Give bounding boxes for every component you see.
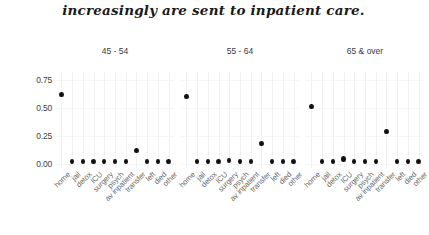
data-point — [91, 159, 95, 164]
vertical-gridline — [397, 72, 398, 168]
figure-caption: increasingly are sent to inpatient care. — [0, 2, 427, 18]
data-point — [384, 129, 388, 134]
vertical-gridline — [365, 72, 366, 168]
vertical-gridline — [322, 72, 323, 168]
vertical-gridline — [61, 72, 62, 168]
facet-panel: 65 & over — [306, 72, 424, 168]
panel-plot-area — [181, 72, 299, 168]
data-point — [416, 159, 420, 164]
chart-plot: 0.000.250.500.75 45 - 5455 - 6465 & over… — [0, 44, 427, 235]
y-axis-tick: 0.25 — [36, 131, 52, 141]
data-point — [374, 159, 378, 164]
vertical-gridline — [408, 72, 409, 168]
data-point — [156, 159, 160, 164]
data-point — [227, 158, 231, 163]
y-axis-tick: 0.75 — [36, 75, 52, 85]
vertical-gridline — [294, 72, 295, 168]
y-axis-tick: 0.00 — [36, 159, 52, 169]
data-point — [331, 159, 335, 164]
data-point — [124, 159, 128, 164]
data-point — [281, 159, 285, 164]
data-point — [238, 159, 242, 164]
data-point — [59, 92, 63, 97]
vertical-gridline — [419, 72, 420, 168]
panel-title: 55 - 64 — [181, 46, 299, 56]
vertical-gridline — [208, 72, 209, 168]
panel-plot-area — [56, 72, 174, 168]
x-axis-tick-label: home — [52, 170, 72, 190]
data-point — [184, 94, 188, 99]
vertical-gridline — [136, 72, 137, 168]
vertical-gridline — [261, 72, 262, 168]
vertical-gridline — [197, 72, 198, 168]
vertical-gridline — [333, 72, 334, 168]
data-point — [134, 148, 138, 153]
vertical-gridline — [126, 72, 127, 168]
vertical-gridline — [158, 72, 159, 168]
panel-title: 45 - 54 — [56, 46, 174, 56]
x-axis-tick-label: home — [302, 170, 322, 190]
vertical-gridline — [94, 72, 95, 168]
vertical-gridline — [272, 72, 273, 168]
data-point — [113, 159, 117, 164]
facet-panel: 45 - 54 — [56, 72, 174, 168]
data-point — [81, 159, 85, 164]
panel-plot-area — [306, 72, 424, 168]
data-point — [216, 159, 220, 164]
y-axis-tick: 0.50 — [36, 103, 52, 113]
vertical-gridline — [169, 72, 170, 168]
vertical-gridline — [83, 72, 84, 168]
vertical-gridline — [72, 72, 73, 168]
facet-panel: 55 - 64 — [181, 72, 299, 168]
vertical-gridline — [219, 72, 220, 168]
vertical-gridline — [283, 72, 284, 168]
data-point — [249, 159, 253, 164]
data-point — [309, 104, 313, 109]
vertical-gridline — [147, 72, 148, 168]
vertical-gridline — [344, 72, 345, 168]
data-point — [291, 159, 295, 164]
data-point — [259, 141, 263, 146]
vertical-gridline — [240, 72, 241, 168]
data-point — [206, 159, 210, 164]
y-axis: 0.000.250.500.75 — [0, 72, 56, 168]
data-point — [363, 159, 367, 164]
data-point — [406, 159, 410, 164]
vertical-gridline — [104, 72, 105, 168]
vertical-gridline — [386, 72, 387, 168]
data-point — [341, 156, 345, 161]
x-axis-tick-label: home — [177, 170, 197, 190]
vertical-gridline — [186, 72, 187, 168]
vertical-gridline — [115, 72, 116, 168]
data-point — [166, 159, 170, 164]
vertical-gridline — [229, 72, 230, 168]
vertical-gridline — [311, 72, 312, 168]
vertical-gridline — [354, 72, 355, 168]
vertical-gridline — [251, 72, 252, 168]
vertical-gridline — [376, 72, 377, 168]
panel-title: 65 & over — [306, 46, 424, 56]
